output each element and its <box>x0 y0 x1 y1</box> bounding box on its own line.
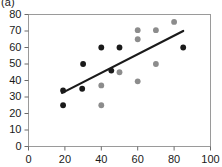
data-point <box>79 86 85 92</box>
data-point <box>80 61 86 67</box>
data-point <box>171 19 177 25</box>
data-point <box>153 27 159 33</box>
x-axis-tick-label-60: 60 <box>118 154 158 165</box>
chart-figure: (a) 01020304050607080020406080100 <box>0 0 221 167</box>
data-point <box>135 27 141 33</box>
data-point <box>135 36 141 42</box>
data-point <box>60 88 66 94</box>
y-axis-tick-label-70: 70 <box>0 25 22 36</box>
data-point <box>98 45 104 51</box>
x-axis-tick-label-0: 0 <box>9 154 49 165</box>
series-gray-points <box>98 19 177 108</box>
y-axis-tick-label-10: 10 <box>0 124 22 135</box>
data-point <box>135 78 141 84</box>
plot-frame <box>29 15 211 147</box>
data-point <box>117 45 123 51</box>
y-axis-tick-label-30: 30 <box>0 91 22 102</box>
y-axis-tick-label-80: 80 <box>0 9 22 20</box>
y-axis-tick-label-40: 40 <box>0 75 22 86</box>
y-axis-tick-label-50: 50 <box>0 58 22 69</box>
data-point <box>98 102 104 108</box>
x-axis-tick-label-80: 80 <box>154 154 194 165</box>
x-axis-tick-label-100: 100 <box>191 154 222 165</box>
data-point <box>108 68 114 74</box>
regression-trendline <box>62 31 183 93</box>
y-axis-tick-label-20: 20 <box>0 108 22 119</box>
x-axis-tick-label-40: 40 <box>81 154 121 165</box>
data-point <box>180 45 186 51</box>
data-point <box>117 69 123 75</box>
data-point <box>153 61 159 67</box>
data-point <box>98 83 104 89</box>
x-axis-tick-label-20: 20 <box>45 154 85 165</box>
series-black-points <box>60 45 186 109</box>
data-point <box>60 102 66 108</box>
y-axis-tick-label-60: 60 <box>0 42 22 53</box>
plot-canvas <box>0 0 221 167</box>
y-axis-tick-label-0: 0 <box>0 141 22 152</box>
